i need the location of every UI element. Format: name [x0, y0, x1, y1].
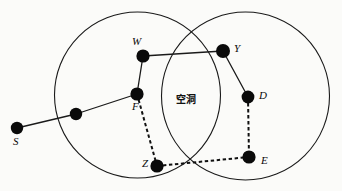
node-z	[150, 159, 163, 172]
edge-s-n1	[17, 114, 76, 128]
node-n1	[70, 108, 82, 120]
edge-z-e	[157, 157, 249, 166]
edge-y-d	[223, 51, 248, 97]
edge-f-z	[137, 94, 157, 166]
network-void-diagram: SFWYDZE 空洞	[0, 0, 342, 191]
node-label-y: Y	[234, 42, 242, 54]
edge-w-y	[143, 51, 223, 56]
node-label-w: W	[132, 35, 142, 47]
node-d	[242, 91, 255, 104]
edge-n1-f	[76, 94, 137, 114]
node-label-f: F	[131, 100, 139, 112]
node-label-z: Z	[142, 157, 149, 169]
node-f	[130, 87, 143, 100]
node-label-d: D	[258, 89, 267, 101]
node-w	[136, 49, 149, 62]
node-label-s: S	[13, 135, 19, 147]
void-region-label: 空洞	[176, 93, 196, 105]
node-s	[11, 122, 23, 134]
node-e	[242, 150, 255, 163]
node-label-e: E	[260, 154, 268, 166]
node-y	[216, 44, 230, 58]
diagram-canvas: SFWYDZE 空洞	[0, 0, 342, 191]
edge-d-e	[248, 97, 249, 157]
